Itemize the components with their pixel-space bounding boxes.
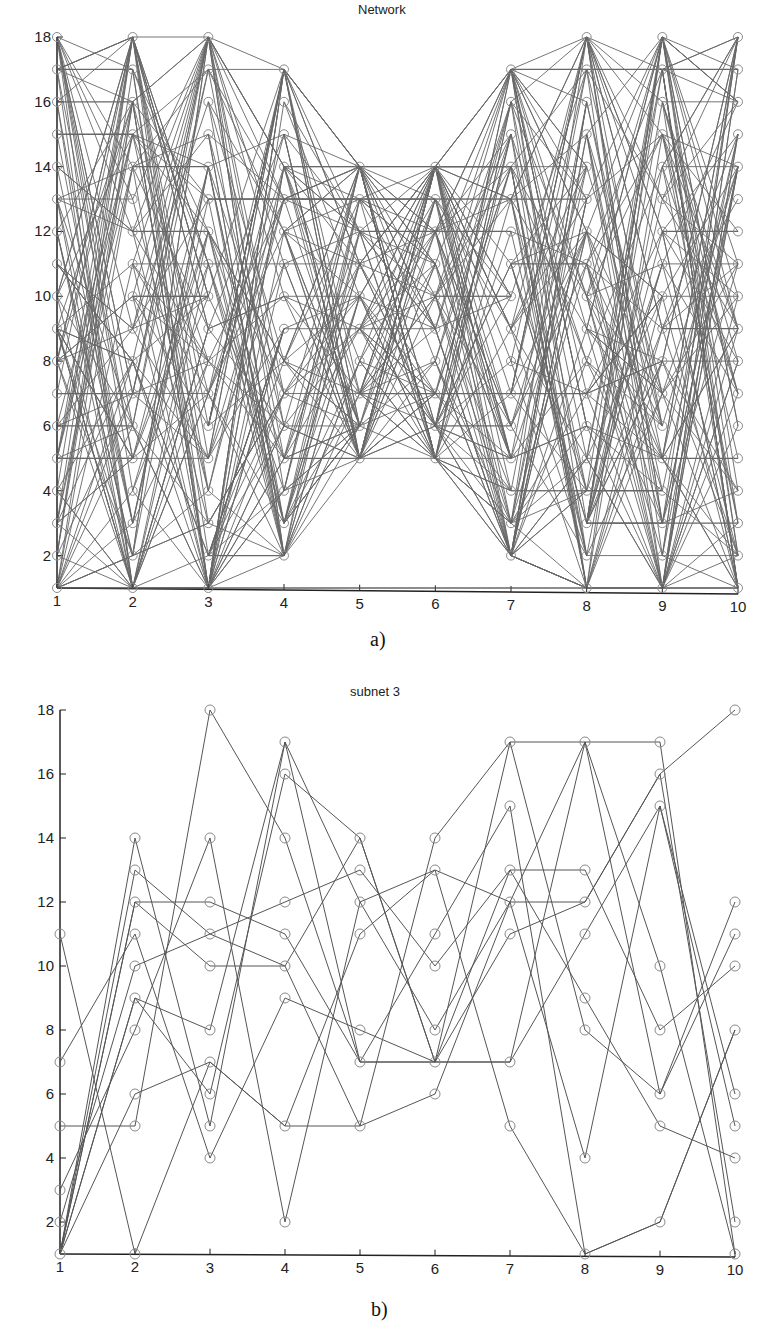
y-tick-label: 12	[34, 222, 51, 239]
y-tick-label: 2	[43, 547, 51, 564]
y-tick-label: 6	[43, 417, 51, 434]
x-tick-label: 5	[356, 1259, 364, 1276]
subnet-path	[60, 774, 735, 1254]
x-tick-label: 6	[431, 595, 439, 612]
x-tick-label: 2	[131, 1258, 139, 1275]
x-tick-label: 10	[730, 598, 747, 615]
x-tick-label: 3	[206, 1259, 214, 1276]
x-tick-label: 6	[431, 1260, 439, 1277]
y-tick-label: 10	[34, 287, 51, 304]
subnet-chart-panel: subnet 3 1234567891024681012141618 b)	[0, 665, 777, 1331]
y-tick-label: 16	[37, 765, 54, 782]
x-tick-label: 9	[658, 597, 666, 614]
y-tick-label: 14	[34, 158, 51, 175]
x-tick-label: 1	[56, 1258, 64, 1275]
y-tick-label: 4	[46, 1149, 54, 1166]
figure-caption: a)	[370, 628, 386, 651]
network-edges	[57, 37, 738, 588]
x-tick-label: 10	[727, 1261, 744, 1278]
x-tick-label: 5	[355, 595, 363, 612]
y-tick-label: 18	[37, 701, 54, 718]
y-tick-label: 18	[34, 28, 51, 45]
y-tick-label: 16	[34, 93, 51, 110]
subnet-plot: 1234567891024681012141618	[0, 665, 777, 1331]
y-tick-label: 6	[46, 1085, 54, 1102]
x-tick-label: 1	[53, 592, 61, 609]
network-plot: 1234567891024681012141618	[0, 0, 777, 665]
y-tick-label: 2	[46, 1213, 54, 1230]
y-tick-label: 14	[37, 829, 54, 846]
x-tick-label: 2	[128, 593, 136, 610]
y-tick-label: 8	[43, 352, 51, 369]
y-tick-label: 4	[43, 482, 51, 499]
network-chart-panel: Network 1234567891024681012141618 a)	[0, 0, 777, 665]
x-tick-label: 8	[582, 597, 590, 614]
x-tick-label: 7	[506, 1260, 514, 1277]
y-tick-label: 8	[46, 1021, 54, 1038]
subnet-paths	[60, 710, 735, 1254]
x-tick-label: 4	[281, 1259, 289, 1276]
x-tick-label: 3	[204, 593, 212, 610]
y-tick-label: 12	[37, 893, 54, 910]
x-tick-label: 4	[280, 594, 288, 611]
figure-caption: b)	[371, 1298, 388, 1321]
x-tick-label: 7	[507, 596, 515, 613]
x-tick-label: 8	[581, 1260, 589, 1277]
y-tick-label: 10	[37, 957, 54, 974]
x-tick-label: 9	[656, 1261, 664, 1278]
